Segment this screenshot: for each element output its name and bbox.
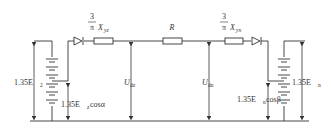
right-source-voltage-label: 1.35E [292,78,311,87]
right-reactance-symbol: X [229,23,236,32]
diode-icon [74,37,83,45]
udz-sub: dz [130,82,136,88]
left-reactance-resistor-icon [94,38,113,44]
left-source-voltage-label: 1.35E [14,78,33,87]
right-reactance-sub: yn [235,27,241,33]
udn-sub: dn [208,82,214,88]
right-source-voltage-sub: n [318,82,321,88]
left-controlled-label: 1.35E [61,100,80,109]
right-reactance-denominator: π [222,23,226,32]
left-reactance-sub: yz [103,27,109,33]
resistor-label: R [169,23,175,32]
left-reactance-denominator: π [90,23,94,32]
right-controlled-suffix: cosβ [266,95,281,104]
circuit-diagram: 3 π X yz R 3 π X yn 1.35E 2 1.35E z cosα… [0,0,331,132]
resistor-icon [163,38,182,44]
right-reactance-numerator: 3 [222,12,226,21]
left-reactance-numerator: 3 [90,12,94,21]
right-controlled-label: 1.35E [237,95,256,104]
left-reactance-symbol: X [97,23,104,32]
left-controlled-suffix: cosα [90,100,106,109]
right-reactance-resistor-icon [225,38,243,44]
diode-icon [252,37,261,45]
left-source-voltage-sub: 2 [40,82,43,88]
